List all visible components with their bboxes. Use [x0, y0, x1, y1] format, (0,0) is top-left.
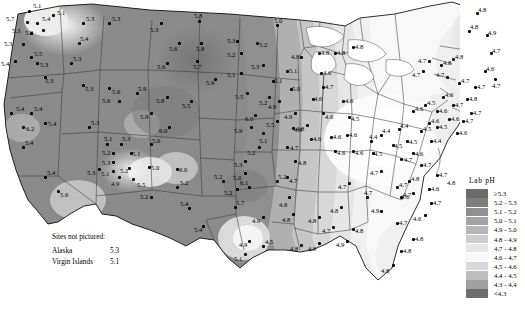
site-value-label: 5.0: [274, 18, 282, 25]
site-value-label: 5.1: [57, 10, 65, 17]
site-value-label: 4.6: [445, 92, 453, 99]
site-value-label: 5.6: [60, 192, 68, 199]
legend-swatch: [466, 244, 488, 252]
site-dot-icon: [262, 216, 265, 219]
legend-label: 5.1 - 5.2: [494, 208, 517, 215]
site-value-label: 4.7: [492, 48, 500, 55]
site-value-label: 4.7: [477, 84, 485, 91]
site-value-label: 5.5: [34, 51, 42, 58]
site-value-label: 5.2: [224, 190, 232, 197]
site-dot-icon: [318, 216, 321, 219]
site-dot-icon: [250, 126, 253, 129]
note-row: Alaska5.3: [52, 246, 119, 258]
site-value-label: 5.3: [234, 162, 242, 169]
site-value-label: 5.3: [102, 160, 110, 167]
site-value-label: 4.8: [330, 208, 338, 215]
site-value-label: 4.6: [415, 106, 423, 113]
site-value-label: 4.8: [415, 236, 423, 243]
site-value-label: 5.6: [112, 89, 120, 96]
site-value-label: 5.4: [194, 227, 202, 234]
site-dot-icon: [380, 170, 383, 173]
site-value-label: 4.8: [321, 50, 329, 57]
site-value-label: 4.8: [282, 217, 290, 224]
site-value-label: 4.6: [349, 132, 357, 139]
site-value-label: 4.6: [431, 118, 439, 125]
site-value-label: 4.7: [404, 157, 412, 164]
site-dot-icon: [82, 22, 85, 25]
site-value-label: 5.1: [104, 136, 112, 143]
legend-row: 4.4 - 4.5: [466, 271, 525, 280]
site-value-label: 4.7: [338, 184, 346, 191]
site-dot-icon: [244, 160, 247, 163]
site-dot-icon: [106, 143, 109, 146]
site-value-label: 4.8: [337, 50, 345, 57]
legend-row: 5.2 - 5.3: [466, 198, 525, 207]
site-dot-icon: [380, 210, 383, 213]
legend-row: 5.0 - 5.1: [466, 216, 525, 225]
site-value-label: 6.0: [179, 167, 187, 174]
site-value-label: 5.3: [251, 64, 259, 71]
note-table: Alaska5.3Virgin Islands5.1: [52, 246, 119, 269]
site-value-label: 4.5: [423, 126, 431, 133]
site-value-label: 4.6: [486, 66, 494, 73]
site-value-label: 5.5: [182, 103, 190, 110]
site-dot-icon: [258, 146, 261, 149]
site-value-label: 5.3: [4, 41, 12, 48]
site-dot-icon: [244, 172, 247, 175]
site-dot-icon: [10, 112, 13, 115]
site-value-label: 4.5: [265, 239, 273, 246]
site-value-label: 4.8: [403, 248, 411, 255]
site-dot-icon: [412, 192, 415, 195]
legend-label: <4.3: [494, 290, 506, 297]
site-value-label: 4.7: [364, 190, 372, 197]
site-value-label: 4.6: [355, 150, 363, 157]
site-value-label: 4.7: [418, 58, 426, 65]
site-dot-icon: [166, 62, 169, 65]
legend-row: 4.9 - 5.0: [466, 225, 525, 234]
legend-row: 4.7 - 4.8: [466, 244, 525, 253]
site-value-label: 5.7: [236, 200, 244, 207]
site-value-label: 4.8: [455, 54, 463, 61]
site-value-label: 5.9: [140, 114, 148, 121]
legend-label: 5.0 - 5.1: [494, 217, 517, 224]
site-value-label: 6.0: [245, 116, 253, 123]
site-dot-icon: [118, 100, 121, 103]
site-value-label: 5.4: [16, 106, 24, 113]
site-value-label: 4.8: [411, 176, 419, 183]
site-value-label: 5.3: [40, 62, 48, 69]
site-value-label: 5.6: [157, 64, 165, 71]
site-dot-icon: [300, 244, 303, 247]
site-dot-icon: [244, 253, 247, 256]
note-site-value: 5.1: [110, 257, 119, 269]
site-value-label: 5.0: [292, 86, 300, 93]
site-value-label: 5.4: [47, 170, 55, 177]
legend-label: 4.4 - 4.5: [494, 272, 517, 279]
legend-swatch: [466, 271, 488, 279]
site-value-label: 5.6: [102, 98, 110, 105]
legend-edge-site-label: 4.8: [447, 179, 455, 186]
site-value-label: 4.9: [111, 181, 119, 188]
site-value-label: 4.8: [355, 228, 363, 235]
site-value-label: 4.4: [382, 128, 390, 135]
ph-map-figure: 5.15.75.45.15.35.25.35.55.45.35.35.35.45…: [0, 0, 525, 315]
site-dot-icon: [292, 213, 295, 216]
site-value-label: 4.6: [431, 186, 439, 193]
site-value-label: 5.4: [25, 140, 33, 147]
site-value-label: 4.6: [345, 98, 353, 105]
site-value-label: 4.7: [370, 170, 378, 177]
site-dot-icon: [276, 120, 279, 123]
site-dot-icon: [108, 22, 111, 25]
site-dot-icon: [178, 42, 181, 45]
site-dot-icon: [150, 196, 153, 199]
site-value-label: 5.4: [34, 106, 42, 113]
legend-label: 4.7 - 4.8: [494, 245, 517, 252]
site-dot-icon: [22, 126, 25, 129]
site-value-label: 4.8: [443, 60, 451, 67]
site-value-label: 5.0: [233, 175, 241, 182]
site-value-label: 4.8: [291, 54, 299, 61]
site-dot-icon: [112, 170, 115, 173]
site-dot-icon: [202, 225, 205, 228]
site-value-label: 5.9: [138, 86, 146, 93]
site-value-label: 4.7: [289, 178, 297, 185]
site-value-label: 4.6: [325, 114, 333, 121]
